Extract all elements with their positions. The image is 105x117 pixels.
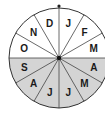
segment-label-may: M: [80, 78, 88, 89]
segment-label-march: M: [90, 43, 98, 54]
segment-label-june: J: [66, 87, 72, 98]
center-hub: [57, 56, 61, 60]
segment-label-december: D: [46, 18, 53, 29]
segment-label-july: J: [47, 87, 53, 98]
segment-label-january: J: [66, 18, 72, 29]
top-marker-dot: [57, 4, 60, 7]
segment-label-february: F: [81, 27, 87, 38]
segment-label-august: A: [30, 78, 37, 89]
month-wheel-diagram: JFMAMJJASOND: [0, 0, 105, 117]
segment-label-april: A: [90, 62, 97, 73]
segment-label-september: S: [21, 62, 28, 73]
segment-label-november: N: [30, 27, 37, 38]
segment-label-october: O: [20, 43, 28, 54]
